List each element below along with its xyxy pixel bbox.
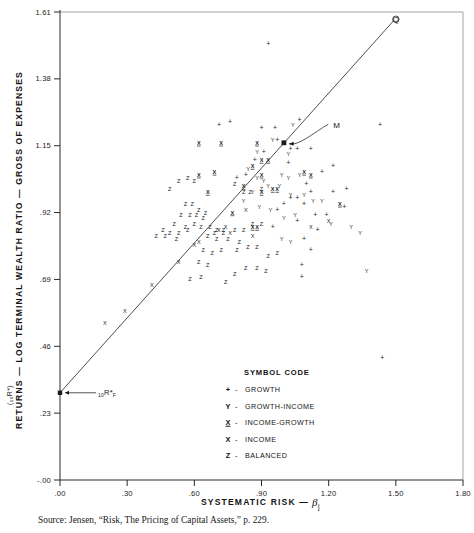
legend-symbol-income: X [226, 435, 231, 444]
data-point-growth: + [309, 188, 313, 195]
data-point-growth: + [300, 273, 304, 280]
data-point-income: X [123, 308, 127, 314]
data-point-income-growth: X̲ [230, 210, 234, 216]
risk-free-label-sub-f: F [113, 392, 116, 398]
x-tick-label: 1.20 [321, 489, 337, 498]
x-axis-title: SYSTEMATIC RISK — [201, 497, 309, 507]
data-point-growth: + [275, 206, 279, 213]
data-point-growth: + [271, 223, 275, 230]
data-point-balanced: Z [260, 186, 264, 192]
data-point-growth: + [298, 116, 302, 123]
source-citation: Source: Jensen, “Risk, The Pricing of Ca… [38, 515, 269, 525]
data-point-growth-income: Y [286, 175, 290, 181]
data-point-income-growth: X̲ [251, 163, 255, 169]
data-point-growth-income: Y [365, 268, 369, 274]
legend-symbol-growth: + [226, 385, 231, 394]
data-point-income-growth: X̲ [309, 172, 313, 178]
data-point-growth: + [342, 203, 346, 210]
data-point-growth-income: Y [280, 236, 284, 242]
data-point-income-growth: X̲ [197, 140, 201, 146]
data-point-balanced: Z [206, 233, 210, 239]
beta-symbol-icon: β [311, 496, 318, 508]
data-point-growth: + [259, 124, 263, 131]
x-tick-label: .60 [189, 489, 200, 498]
data-point-income: X [244, 207, 248, 213]
legend-dash-balanced: - [235, 451, 238, 460]
q-label: Q [393, 15, 399, 24]
legend-label-balanced: BALANCED [245, 451, 287, 460]
data-point-income-growth: X̲ [338, 201, 342, 207]
data-point-balanced: Z [267, 253, 271, 259]
data-point-balanced: Z [211, 250, 215, 256]
scatter-figure: -.00.23.46.69.921.151.381.61.00.30.60.90… [0, 0, 474, 533]
data-point-balanced: Z [206, 262, 210, 268]
data-point-balanced: Z [155, 233, 159, 239]
data-point-balanced: Z [222, 230, 226, 236]
data-point-growth: + [345, 185, 349, 192]
data-points: +++++++++++++++++++++++++++++++++++++++Y… [103, 40, 385, 361]
data-point-growth: + [309, 145, 313, 152]
data-point-growth-income: Y [289, 239, 293, 245]
legend-symbol-balanced: Z [226, 451, 231, 460]
data-point-growth: + [302, 235, 306, 242]
data-point-balanced: Z [186, 227, 190, 233]
data-point-growth: + [331, 162, 335, 169]
data-point-balanced: Z [199, 274, 203, 280]
data-point-growth-income: Y [255, 175, 259, 181]
data-point-growth-income: Y [269, 207, 273, 213]
data-point-growth: + [380, 354, 384, 361]
data-point-growth-income: Y [358, 230, 362, 236]
data-point-balanced: Z [188, 276, 192, 282]
data-point-growth: + [300, 261, 304, 268]
data-point-balanced: Z [219, 247, 223, 253]
data-point-growth: + [286, 159, 290, 166]
y-tick-label: .92 [40, 208, 51, 217]
data-point-balanced: Z [177, 178, 181, 184]
data-point-income: X [197, 239, 201, 245]
data-point-growth: + [315, 226, 319, 233]
market-arrow [289, 124, 328, 144]
data-point-income-growth: X̲ [271, 186, 275, 192]
data-point-income: X [177, 259, 181, 265]
data-point-growth-income: Y [289, 192, 293, 198]
data-point-growth-income: Y [349, 224, 353, 230]
data-point-income: X [150, 282, 154, 288]
data-point-balanced: Z [188, 212, 192, 218]
data-point-growth-income: Y [291, 122, 295, 128]
data-point-growth: + [228, 118, 232, 125]
data-point-income-growth: X̲ [266, 157, 270, 163]
legend-symbol-income-growth: X̲ [225, 418, 231, 427]
data-point-balanced: Z [215, 236, 219, 242]
data-point-growth-income: Y [302, 192, 306, 198]
data-point-balanced: Z [199, 224, 203, 230]
data-point-growth: + [320, 168, 324, 175]
data-point-balanced: Z [184, 201, 188, 207]
y-tick-label: .46 [40, 342, 51, 351]
data-point-balanced: Z [233, 271, 237, 277]
data-point-income: X [309, 224, 313, 230]
data-point-income-growth: X̲ [212, 169, 216, 175]
data-point-growth-income: Y [246, 166, 250, 172]
data-point-balanced: Z [197, 259, 201, 265]
beta-subscript: j [317, 503, 320, 511]
data-point-growth-income: Y [298, 172, 302, 178]
y-axis-subtitle: (₁₀R*) [6, 385, 14, 405]
x-tick-label: 1.80 [455, 489, 471, 498]
market-label: M [333, 121, 340, 130]
data-point-balanced: Z [168, 186, 172, 192]
data-point-growth-income: Y [242, 198, 246, 204]
y-tick-label: -.00 [37, 476, 51, 485]
y-tick-label: .23 [40, 409, 51, 418]
data-point-growth: + [295, 194, 299, 201]
data-point-balanced: Z [235, 247, 239, 253]
data-point-growth: + [217, 121, 221, 128]
data-point-income-growth: X̲ [197, 172, 201, 178]
data-point-growth-income: Y [320, 198, 324, 204]
data-point-income: X [327, 218, 331, 224]
data-point-growth-income: Y [282, 215, 286, 221]
data-point-balanced: Z [237, 239, 241, 245]
data-point-growth: + [275, 136, 279, 143]
legend-title: SYMBOL CODE [244, 368, 310, 377]
data-point-growth: + [262, 148, 266, 155]
data-point-income: X [251, 233, 255, 239]
